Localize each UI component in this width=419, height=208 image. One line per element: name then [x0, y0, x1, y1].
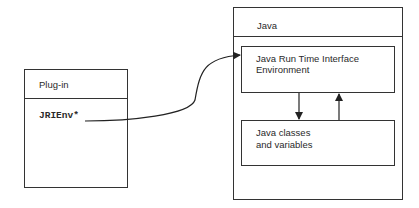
connector-layer: [0, 0, 419, 208]
jrienv-to-jri-arrow: [85, 55, 240, 121]
